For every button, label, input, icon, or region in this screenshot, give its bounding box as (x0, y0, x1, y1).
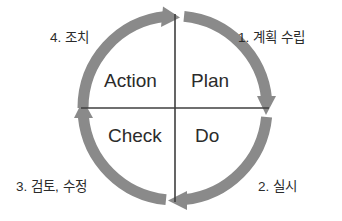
quadrant-label-plan: Plan (191, 71, 229, 90)
caption-check: 3. 검토, 수정 (16, 180, 87, 194)
caption-action: 4. 조치 (50, 31, 89, 45)
caption-plan: 1. 계획 수립 (238, 31, 305, 45)
check-arrow (74, 100, 166, 200)
quadrant-label-do: Do (195, 126, 219, 145)
pdca-cycle-diagram: Action Plan Check Do 4. 조치 1. 계획 수립 3. 검… (0, 0, 342, 221)
caption-do: 2. 실시 (258, 180, 297, 194)
action-arrow (83, 7, 180, 109)
quadrant-label-check: Check (108, 126, 162, 145)
quadrant-label-action: Action (104, 71, 157, 90)
